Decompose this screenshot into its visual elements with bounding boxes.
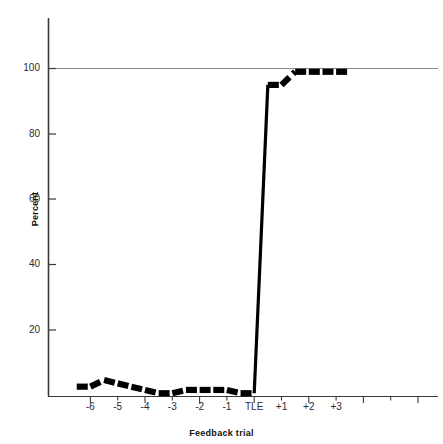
- y-tick-label-100: 100: [6, 62, 40, 73]
- chart-plot-area: [0, 0, 443, 444]
- y-tick-label-40: 40: [6, 258, 40, 269]
- x-axis-title: Feedback trial: [0, 428, 443, 438]
- data-series-line: [77, 72, 350, 393]
- y-tick-label-20: 20: [6, 324, 40, 335]
- y-tick-label-80: 80: [6, 128, 40, 139]
- x-tick-label-p3: +3: [316, 401, 356, 412]
- y-axis-title: Percent: [30, 179, 40, 239]
- chart-figure: 100 80 60 40 20 -6 -5 -4 -3 -2 -1 TLE +1…: [0, 0, 443, 444]
